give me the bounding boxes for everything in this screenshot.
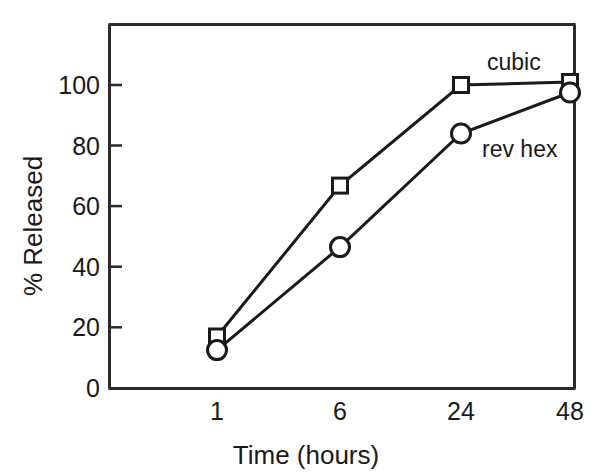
y-axis-title: % Released xyxy=(18,156,48,296)
series-label-rev-hex: rev hex xyxy=(482,136,558,162)
series-cubic-point-24 xyxy=(454,78,469,93)
series-rev-hex-point-1 xyxy=(208,341,227,360)
y-tick-label-100: 100 xyxy=(58,71,100,99)
x-tick-label-1: 1 xyxy=(210,397,224,425)
x-axis-title: Time (hours) xyxy=(233,440,379,470)
series-label-cubic: cubic xyxy=(487,49,541,75)
series-cubic-point-6 xyxy=(333,178,348,193)
x-tick-label-48: 48 xyxy=(556,397,584,425)
y-tick-label-80: 80 xyxy=(72,132,100,160)
series-rev-hex-point-24 xyxy=(452,124,471,143)
y-tick-label-40: 40 xyxy=(72,253,100,281)
x-tick-label-6: 6 xyxy=(333,397,347,425)
y-tick-label-20: 20 xyxy=(72,313,100,341)
y-tick-label-60: 60 xyxy=(72,192,100,220)
x-tick-label-24: 24 xyxy=(447,397,475,425)
release-profile-chart: 100 80 60 40 20 0 1 6 24 48 Time (hours)… xyxy=(0,0,613,476)
series-rev-hex-point-48 xyxy=(561,83,580,102)
chart-container: 100 80 60 40 20 0 1 6 24 48 Time (hours)… xyxy=(0,0,613,476)
series-rev-hex-point-6 xyxy=(331,238,350,257)
y-tick-label-0: 0 xyxy=(86,374,100,402)
